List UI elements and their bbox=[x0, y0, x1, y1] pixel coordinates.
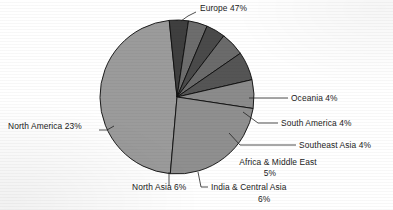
slice-value-india-central-asia: 6% bbox=[258, 194, 271, 204]
pie-chart-canvas: Europe 47%Oceania 4%South America 4%Sout… bbox=[0, 0, 393, 210]
slice-label-india-central-asia: India & Central Asia bbox=[211, 182, 287, 192]
slice-label-oceania: Oceania 4% bbox=[291, 93, 338, 103]
slice-label-south-america: South America 4% bbox=[281, 118, 352, 128]
slice-label-southeast-asia: Southeast Asia 4% bbox=[299, 140, 371, 150]
pie-chart-figure: Europe 47%Oceania 4%South America 4%Sout… bbox=[0, 0, 393, 210]
slice-label-north-america: North America 23% bbox=[8, 121, 82, 131]
pie-slice-europe[interactable] bbox=[100, 20, 177, 173]
leader-line-europe bbox=[181, 12, 196, 21]
slice-label-north-asia: North Asia 6% bbox=[132, 182, 187, 192]
pie-slices-group bbox=[100, 20, 254, 174]
slice-label-africa-middle-east: Africa & Middle East bbox=[239, 157, 317, 167]
slice-label-europe: Europe 47% bbox=[200, 3, 248, 13]
leader-line-india-central-asia bbox=[198, 172, 208, 187]
slice-value-africa-middle-east: 5% bbox=[264, 168, 277, 178]
